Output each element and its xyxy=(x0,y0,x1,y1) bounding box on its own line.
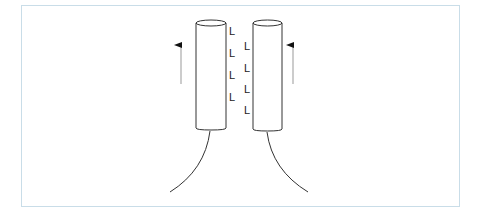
left-label-0: L xyxy=(229,25,235,37)
right-label-1: L xyxy=(244,62,250,74)
right-label-0: L xyxy=(244,40,250,52)
right-label-2: L xyxy=(244,83,250,95)
right-cable xyxy=(267,132,308,192)
right-label-3: L xyxy=(244,104,250,116)
left-label-2: L xyxy=(229,69,235,81)
left-label-1: L xyxy=(229,47,235,59)
left-label-3: L xyxy=(229,91,235,103)
cylinders-diagram: L L L L L L L L L xyxy=(0,0,482,220)
left-cable xyxy=(170,131,210,192)
left-cylinder xyxy=(196,20,226,130)
right-cylinder xyxy=(253,20,282,131)
